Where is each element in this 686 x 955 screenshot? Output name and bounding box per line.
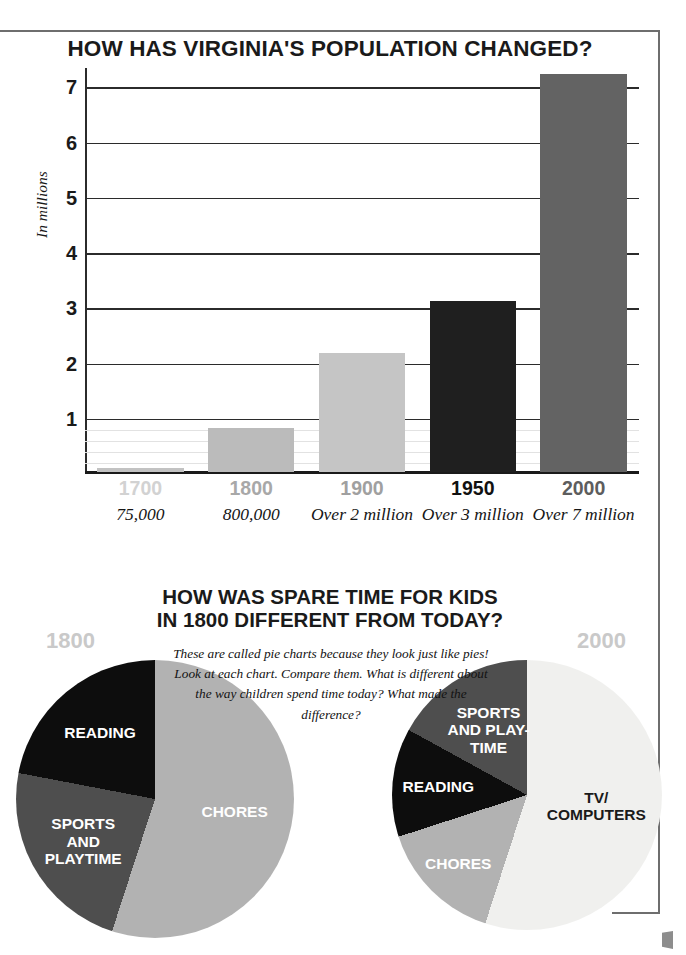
bar-chart-title: HOW HAS VIRGINIA'S POPULATION CHANGED? <box>0 36 660 62</box>
pie-slice-label-chores: CHORES <box>201 803 267 820</box>
pie-slice-label-reading: READING <box>64 724 135 741</box>
bar-1700 <box>97 468 183 472</box>
bar-1950 <box>430 301 516 472</box>
pie-section-title: HOW WAS SPARE TIME FOR KIDS IN 1800 DIFF… <box>0 586 660 632</box>
x-axis-value-2000: Over 7 million <box>528 505 639 525</box>
pie-slice-label-chores: CHORES <box>425 855 491 872</box>
x-axis-value-1950: Over 3 million <box>417 505 528 525</box>
y-axis-label: In millions <box>33 171 51 238</box>
bar-2000 <box>540 74 626 472</box>
bar-1900 <box>319 353 405 472</box>
x-axis-year-2000: 2000 <box>528 478 639 498</box>
pie-slice-label-reading: READING <box>403 778 474 795</box>
y-axis-tick-2: 2 <box>66 354 77 374</box>
pie-section-title-line1: HOW WAS SPARE TIME FOR KIDS <box>0 586 660 609</box>
x-axis-column-1700: 170075,000 <box>85 478 196 588</box>
pie-slice-label-sports-and-playtime: SPORTS AND PLAYTIME <box>45 815 122 867</box>
pie-2000-year-label: 2000 <box>577 628 626 654</box>
x-axis-column-1900: 1900Over 2 million <box>307 478 418 588</box>
x-axis-column-1950: 1950Over 3 million <box>417 478 528 588</box>
pie-section-note: These are called pie charts because they… <box>172 644 490 725</box>
pie-1800-year-label: 1800 <box>46 628 95 654</box>
page-border-top <box>0 30 660 32</box>
y-axis-tick-4: 4 <box>66 243 77 263</box>
x-axis-year-1800: 1800 <box>196 478 307 498</box>
x-axis-label-row: 170075,0001800800,0001900Over 2 million1… <box>85 478 639 588</box>
page-canvas: HOW HAS VIRGINIA'S POPULATION CHANGED? 1… <box>0 0 686 955</box>
y-axis-tick-7: 7 <box>66 77 77 97</box>
pie-section-title-line2: IN 1800 DIFFERENT FROM TODAY? <box>0 609 660 632</box>
bar-chart: 1234567 <box>85 68 639 474</box>
y-axis-tick-1: 1 <box>66 409 77 429</box>
x-axis-column-2000: 2000Over 7 million <box>528 478 639 588</box>
bar-chart-plot-area: 1234567 <box>85 68 639 474</box>
y-axis-tick-3: 3 <box>66 298 77 318</box>
x-axis-year-1950: 1950 <box>417 478 528 498</box>
y-axis-line <box>85 68 87 474</box>
x-axis-year-1700: 1700 <box>85 478 196 498</box>
x-axis-value-1800: 800,000 <box>196 505 307 525</box>
x-axis-column-1800: 1800800,000 <box>196 478 307 588</box>
x-axis-year-1900: 1900 <box>307 478 418 498</box>
y-axis-tick-6: 6 <box>66 133 77 153</box>
bar-1800 <box>208 428 294 472</box>
x-axis-value-1900: Over 2 million <box>307 505 418 525</box>
pie-slice-label-tv-computers: TV/ COMPUTERS <box>547 789 646 824</box>
x-axis-value-1700: 75,000 <box>85 505 196 525</box>
y-axis-tick-5: 5 <box>66 188 77 208</box>
